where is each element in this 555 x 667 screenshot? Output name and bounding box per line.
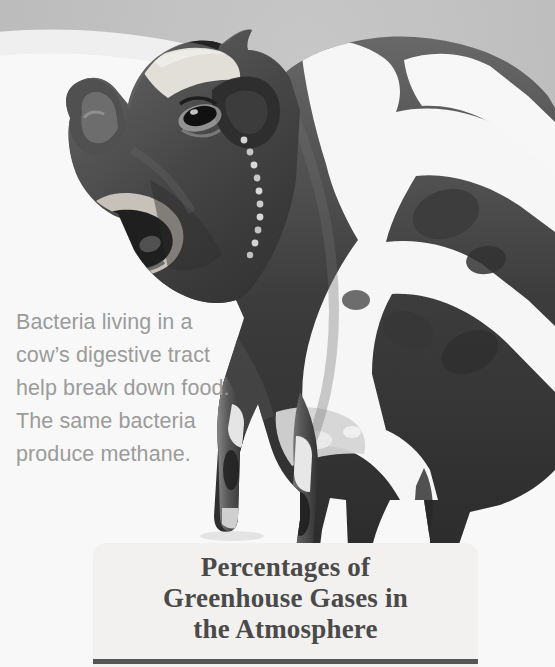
chart-title-panel: Percentages of Greenhouse Gases in the A… (93, 543, 478, 667)
chart-title: Percentages of Greenhouse Gases in the A… (93, 552, 478, 645)
cow-caption-text: Bacteria living in a cow’s digestive tra… (16, 306, 276, 471)
page-root: Bacteria living in a cow’s digestive tra… (0, 0, 555, 667)
title-divider-rule (93, 659, 478, 664)
